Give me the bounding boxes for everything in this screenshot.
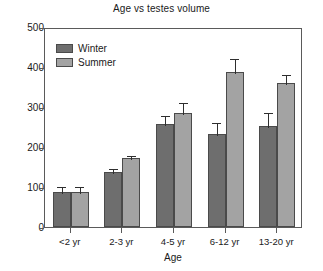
- legend-item: Winter: [56, 42, 136, 55]
- error-bar-cap: [264, 113, 273, 114]
- x-axis-title: Age: [44, 252, 302, 263]
- bar: [71, 192, 89, 227]
- error-bar-cap: [282, 75, 291, 76]
- bar: [277, 83, 295, 227]
- bar: [259, 126, 277, 227]
- legend-swatch: [56, 58, 73, 67]
- bar: [174, 113, 192, 227]
- x-axis-tick-mark: [70, 228, 71, 233]
- x-axis-tick-label: 6-12 yr: [210, 236, 240, 247]
- bar: [156, 124, 174, 227]
- error-bar-stem: [268, 113, 269, 128]
- error-bar-stem: [217, 123, 218, 136]
- error-bar-cap: [161, 116, 170, 117]
- x-axis-tick-mark: [225, 228, 226, 233]
- legend-item: Summer: [56, 56, 136, 69]
- bar: [53, 192, 71, 227]
- error-bar-stem: [286, 75, 287, 85]
- bar: [122, 158, 140, 227]
- chart-title: Age vs testes volume: [0, 3, 323, 14]
- y-axis-tick-mark: [39, 228, 44, 229]
- error-bar-cap: [212, 123, 221, 124]
- x-axis-tick-mark: [276, 228, 277, 233]
- error-bar-cap: [179, 103, 188, 104]
- legend-label: Summer: [78, 58, 116, 68]
- bar: [226, 72, 244, 227]
- bar: [104, 172, 122, 227]
- x-axis-tick-label: 2-3 yr: [109, 236, 133, 247]
- legend-label: Winter: [78, 44, 107, 54]
- legend-swatch: [56, 44, 73, 53]
- x-axis-tick-label: 4-5 yr: [161, 236, 185, 247]
- x-axis-tick-label: <2 yr: [59, 236, 80, 247]
- error-bar-cap: [230, 59, 239, 60]
- error-bar-cap: [57, 187, 66, 188]
- x-axis-tick-mark: [173, 228, 174, 233]
- error-bar-stem: [183, 103, 184, 115]
- chart-legend: WinterSummer: [56, 42, 136, 70]
- x-axis-tick-label: 13-20 yr: [259, 236, 294, 247]
- bar-chart-figure: Age vs testes volume 0100200300400500 Wi…: [0, 0, 323, 271]
- error-bar-cap: [109, 169, 118, 170]
- y-axis: 0100200300400500: [0, 0, 44, 271]
- error-bar-stem: [80, 187, 81, 194]
- error-bar-cap: [127, 156, 136, 157]
- error-bar-stem: [235, 59, 236, 74]
- error-bar-stem: [62, 187, 63, 194]
- error-bar-cap: [75, 187, 84, 188]
- bar: [208, 134, 226, 227]
- error-bar-stem: [165, 116, 166, 126]
- x-axis-tick-mark: [121, 228, 122, 233]
